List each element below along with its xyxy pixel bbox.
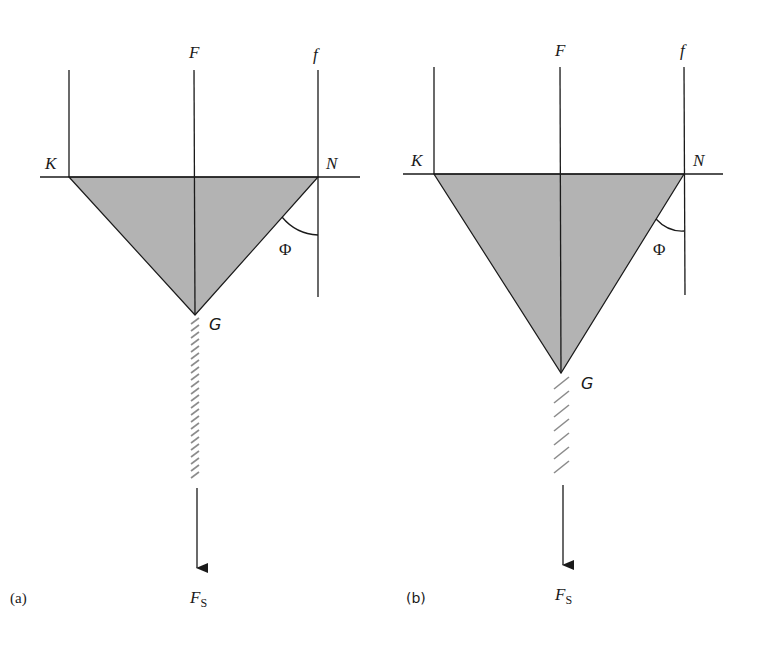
angle-arc-phi-a [282,217,318,235]
panel-a: F f K N Φ G FS (a) [10,43,360,610]
hatched-spring-a [191,318,199,478]
panel-b: F f K N Φ G FS (b) [403,41,723,607]
label-F-b: F [554,41,566,60]
label-N-b: N [692,151,706,170]
label-K-b: K [410,151,424,170]
label-phi-a: Φ [279,240,291,259]
caption-b: (b) [406,590,426,606]
label-f-a: f [313,45,320,64]
label-force-a: FS [189,588,207,610]
caption-a: (a) [10,590,27,607]
label-G-a: G [209,315,221,334]
label-N-a: N [325,154,339,173]
label-force-b: FS [554,585,572,607]
label-K-a: K [44,154,58,173]
angle-arc-phi-b [656,219,684,231]
vertical-line-f-b [684,67,685,295]
hatched-spring-b [554,377,569,473]
figure-canvas: F f K N Φ G FS (a) F f K N Φ [0,0,757,667]
label-G-b: G [581,374,593,393]
label-phi-b: Φ [653,240,665,259]
label-f-b: f [680,41,687,60]
label-F-a: F [188,43,200,62]
triangle-kng-b [434,174,684,373]
